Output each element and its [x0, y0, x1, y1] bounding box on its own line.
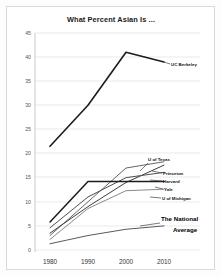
- chart-figure: What Percent Asian Is ... 45 40 35 30 25…: [0, 0, 222, 277]
- label-yale: Yale: [164, 187, 173, 192]
- label-national-average-line1: The National: [161, 215, 198, 222]
- line-chart-plot: 45 40 35 30 25 20 15 10 5 0 1980 1990 20…: [0, 0, 222, 277]
- annotation-leaders: [140, 62, 170, 226]
- leader-national: [140, 223, 160, 226]
- y-tick-30: 30: [25, 102, 31, 108]
- y-tick-5: 5: [28, 223, 31, 229]
- x-axis-tick-labels: 1980 1990 2000 2010: [43, 258, 172, 265]
- x-tick-2010: 2010: [157, 258, 172, 265]
- series-line-uc-berkeley: [50, 52, 164, 146]
- leader-michigan: [150, 197, 161, 198]
- leader-berkeley: [164, 62, 170, 64]
- x-tick-1990: 1990: [81, 258, 96, 265]
- label-uc-berkeley: UC Berkeley: [171, 62, 197, 67]
- series-annotations: UC Berkeley U of Texas Princeton Harvard…: [148, 62, 198, 233]
- label-u-of-michigan: U of Michigan: [162, 196, 191, 201]
- y-tick-40: 40: [25, 54, 31, 60]
- y-tick-10: 10: [25, 199, 31, 205]
- leader-princeton: [152, 171, 162, 173]
- leader-yale: [155, 187, 163, 189]
- y-tick-15: 15: [25, 174, 31, 180]
- label-national-average-line2: Average: [173, 226, 198, 233]
- label-u-of-texas: U of Texas: [148, 157, 170, 162]
- x-tick-2000: 2000: [119, 258, 134, 265]
- y-tick-25: 25: [25, 126, 31, 132]
- series-line-the-national-average: [50, 226, 164, 244]
- y-axis-tick-labels: 45 40 35 30 25 20 15 10 5 0: [25, 30, 31, 253]
- y-tick-45: 45: [25, 30, 31, 36]
- label-princeton: Princeton: [163, 171, 184, 176]
- y-tick-0: 0: [28, 247, 31, 253]
- leader-texas: [140, 163, 148, 171]
- y-tick-20: 20: [25, 150, 31, 156]
- y-tick-35: 35: [25, 78, 31, 84]
- x-tick-1980: 1980: [43, 258, 58, 265]
- label-harvard: Harvard: [163, 179, 180, 184]
